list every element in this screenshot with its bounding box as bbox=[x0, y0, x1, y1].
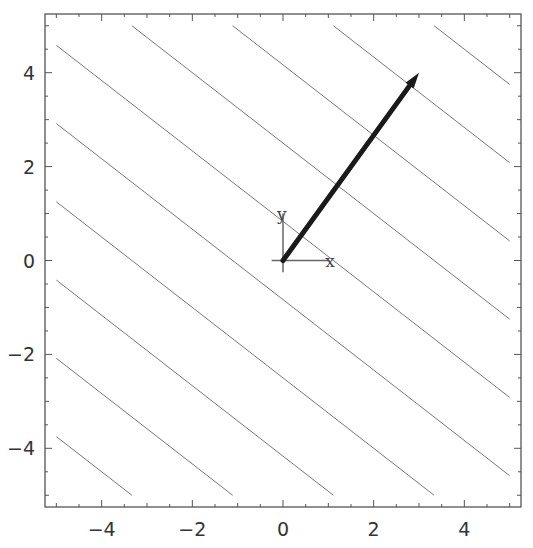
y-tick-label: 0 bbox=[23, 250, 35, 272]
y-tick-label: −4 bbox=[7, 437, 35, 459]
vector-shaft bbox=[283, 86, 410, 261]
y-tick-label: 2 bbox=[23, 156, 35, 178]
contour-line bbox=[56, 280, 333, 495]
contour-line bbox=[56, 358, 232, 495]
origin-x-label: x bbox=[325, 251, 335, 271]
y-tick-labels: −4−2024 bbox=[7, 62, 35, 460]
contour-line bbox=[132, 26, 510, 319]
contour-line bbox=[56, 124, 509, 476]
x-tick-label: −2 bbox=[178, 518, 206, 540]
contour-line bbox=[233, 26, 510, 241]
x-tick-labels: −4−2024 bbox=[88, 518, 471, 540]
x-tick-label: −4 bbox=[88, 518, 116, 540]
origin-y-label: y bbox=[276, 204, 287, 224]
y-tick-label: −2 bbox=[7, 343, 35, 365]
contour-line bbox=[333, 26, 509, 163]
contour-line bbox=[434, 26, 510, 85]
contour-plot: −4−2024 −4−2024 x y bbox=[0, 0, 533, 548]
x-tick-label: 4 bbox=[458, 518, 470, 540]
x-tick-label: 2 bbox=[368, 518, 380, 540]
y-tick-label: 4 bbox=[23, 62, 35, 84]
contour-line bbox=[56, 202, 434, 495]
x-tick-label: 0 bbox=[277, 518, 289, 540]
contour-line bbox=[56, 437, 132, 496]
